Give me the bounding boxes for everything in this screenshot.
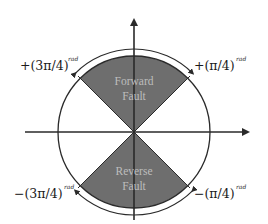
svg-text:−(3π/4): −(3π/4) — [14, 186, 63, 201]
unit: rad — [236, 55, 246, 62]
sign: + — [194, 58, 204, 73]
value: (π/4) — [204, 186, 234, 201]
angle-label-bottom-left: −(3π/4) rad — [14, 183, 74, 201]
forward-fault-label-line1: Forward — [115, 75, 154, 87]
reverse-fault-label-line2: Fault — [122, 180, 146, 192]
value: (π/4) — [204, 58, 234, 73]
sign: − — [14, 186, 24, 201]
unit: rad — [236, 183, 246, 190]
reverse-fault-label-line1: Reverse — [115, 165, 152, 177]
value: (3π/4) — [24, 186, 62, 201]
sign: − — [194, 186, 204, 201]
svg-text:−(π/4): −(π/4) — [194, 186, 235, 201]
unit: rad — [64, 183, 74, 190]
fault-direction-diagram: Forward Fault Reverse Fault +(3π/4) rad … — [0, 0, 268, 224]
angle-label-bottom-right: −(π/4) rad — [194, 183, 246, 201]
value: (3π/4) — [30, 58, 68, 73]
unit: rad — [68, 55, 78, 62]
angle-label-top-left: +(3π/4) rad — [20, 55, 78, 73]
svg-text:+(π/4): +(π/4) — [194, 58, 235, 73]
sign: + — [20, 58, 30, 73]
angle-label-top-right: +(π/4) rad — [194, 55, 246, 73]
svg-text:+(3π/4): +(3π/4) — [20, 58, 69, 73]
forward-fault-label-line2: Fault — [122, 90, 146, 102]
